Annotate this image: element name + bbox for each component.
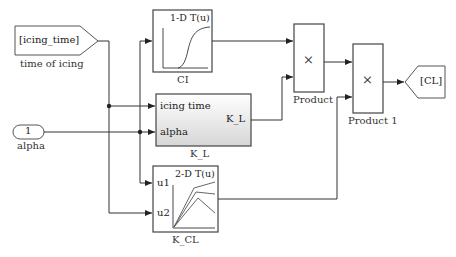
inport-number: 1 (25, 125, 31, 136)
k-cl-block-label: K_CL (172, 234, 199, 245)
k-l-block-label: K_L (190, 148, 209, 159)
k-l-output-port: K_L (226, 113, 245, 124)
inport-label: alpha (17, 140, 45, 151)
from-block-text: [icing_time] (19, 34, 79, 45)
goto-block-text: [CL] (420, 75, 442, 86)
junction-dot (138, 130, 142, 134)
product-block-label: Product (293, 94, 333, 105)
k-cl-input-u2: u2 (157, 207, 170, 218)
k-l-input-alpha: alpha (160, 126, 188, 137)
product1-multiply-icon: × (362, 72, 373, 87)
k-cl-input-u1: u1 (157, 177, 170, 188)
product-multiply-icon: × (303, 52, 314, 67)
junction-dot (107, 104, 111, 108)
k-cl-block-title: 2-D T(u) (175, 168, 215, 179)
product1-block-label: Product 1 (348, 115, 398, 126)
ci-block-title: 1-D T(u) (170, 12, 210, 23)
k-l-input-icing-time: icing time (160, 100, 211, 111)
from-block-label: time of icing (20, 58, 84, 69)
ci-block-label: CI (177, 74, 189, 85)
